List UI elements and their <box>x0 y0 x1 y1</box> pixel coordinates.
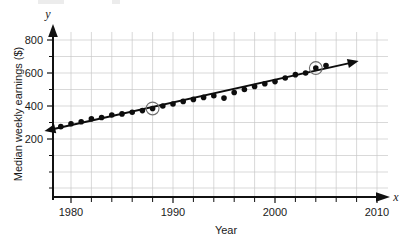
data-point <box>323 63 329 69</box>
data-point <box>231 90 237 96</box>
y-tick-label: 600 <box>25 67 43 79</box>
data-point <box>109 112 115 118</box>
x-axis <box>53 192 390 203</box>
data-point <box>242 87 248 93</box>
data-point <box>201 95 207 101</box>
data-point <box>78 119 84 125</box>
page-artifact-top <box>38 0 120 4</box>
data-point <box>211 93 217 99</box>
x-tick-label: 2000 <box>263 206 287 218</box>
data-point <box>313 65 319 71</box>
y-tick-labels: 800 600 400 200 <box>25 34 43 145</box>
data-point <box>180 99 186 105</box>
data-point <box>303 70 309 76</box>
data-point <box>170 101 176 107</box>
y-tick-label: 400 <box>25 100 43 112</box>
data-point <box>262 81 268 87</box>
chart-canvas: y x 800 600 400 200 1980 1990 2000 2010 … <box>0 0 408 239</box>
data-point <box>129 109 135 115</box>
data-point <box>89 116 95 122</box>
data-point <box>293 72 299 78</box>
x-axis-title: Year <box>215 224 238 236</box>
y-tick-label: 200 <box>25 133 43 145</box>
data-point <box>160 103 166 109</box>
x-tick-label: 1990 <box>161 206 185 218</box>
x-tick-label: 1980 <box>59 206 83 218</box>
x-tick-labels: 1980 1990 2000 2010 <box>59 206 389 218</box>
y-axis-variable-label: y <box>44 7 51 21</box>
scatter-plot: y x 800 600 400 200 1980 1990 2000 2010 … <box>0 0 408 239</box>
y-tick-label: 800 <box>25 34 43 46</box>
y-axis <box>47 24 58 200</box>
data-point <box>252 84 258 90</box>
data-point <box>282 75 288 81</box>
x-axis-variable-label: x <box>392 190 399 204</box>
y-axis-title: Median weekly earnings ($) <box>12 47 24 182</box>
data-point <box>119 111 125 117</box>
data-point <box>221 95 227 101</box>
data-point <box>140 108 146 114</box>
horizontal-gridlines <box>53 40 388 188</box>
data-point <box>272 79 278 85</box>
data-point <box>99 115 105 121</box>
data-point <box>191 97 197 103</box>
data-point <box>68 121 74 127</box>
x-tick-label: 2010 <box>365 206 389 218</box>
data-point <box>150 106 156 112</box>
data-point <box>58 124 64 130</box>
